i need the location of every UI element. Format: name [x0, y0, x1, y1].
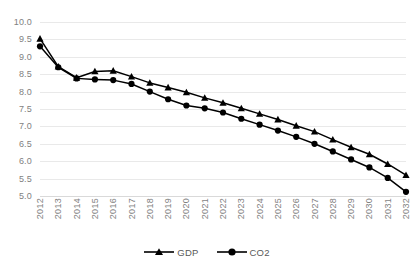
- x-tick-label: 2012: [35, 198, 45, 219]
- y-tick-label: 8.0: [19, 87, 32, 96]
- data-point-triangle: [36, 35, 43, 42]
- data-point-circle: [202, 105, 208, 111]
- data-point-circle: [403, 189, 409, 195]
- triangle-marker-icon: [144, 246, 174, 258]
- x-tick-label: 2018: [145, 198, 155, 219]
- data-point-circle: [55, 64, 61, 70]
- x-tick-label: 2016: [108, 198, 118, 219]
- data-point-circle: [366, 164, 372, 170]
- data-point-circle: [293, 134, 299, 140]
- y-axis-labels: 10.09.59.08.58.07.57.06.56.05.55.0: [0, 0, 36, 274]
- x-tick-label: 2020: [181, 198, 191, 219]
- data-point-circle: [385, 175, 391, 181]
- data-point-circle: [238, 116, 244, 122]
- y-tick-label: 5.0: [19, 192, 32, 201]
- chart-legend: GDP CO2: [0, 246, 414, 258]
- y-tick-label: 8.5: [19, 70, 32, 79]
- y-tick-label: 9.0: [19, 52, 32, 61]
- data-point-circle: [37, 43, 43, 49]
- y-tick-label: 6.0: [19, 157, 32, 166]
- data-point-circle: [275, 127, 281, 133]
- x-tick-label: 2027: [310, 198, 320, 219]
- series-line: [40, 39, 406, 175]
- x-tick-label: 2022: [218, 198, 228, 219]
- x-axis-labels: 2012201320142015201620172018201920202021…: [40, 198, 406, 238]
- data-point-circle: [220, 109, 226, 115]
- x-tick-label: 2025: [273, 198, 283, 219]
- data-point-circle: [165, 96, 171, 102]
- legend-label-gdp: GDP: [177, 247, 198, 258]
- x-tick-label: 2031: [383, 198, 393, 219]
- line-chart: 10.09.59.08.58.07.57.06.56.05.55.0 20122…: [0, 0, 414, 274]
- x-tick-label: 2026: [291, 198, 301, 219]
- data-point-circle: [183, 102, 189, 108]
- x-tick-label: 2021: [200, 198, 210, 219]
- data-point-circle: [110, 77, 116, 83]
- x-tick-label: 2015: [90, 198, 100, 219]
- legend-label-co2: CO2: [250, 247, 270, 258]
- x-tick-label: 2013: [53, 198, 63, 219]
- y-tick-label: 7.0: [19, 122, 32, 131]
- y-tick-label: 7.5: [19, 105, 32, 114]
- x-tick-label: 2024: [255, 198, 265, 219]
- legend-item-gdp[interactable]: GDP: [144, 246, 198, 258]
- circle-marker-icon: [217, 246, 247, 258]
- data-point-triangle: [402, 172, 409, 179]
- data-point-circle: [74, 75, 80, 81]
- x-tick-label: 2032: [401, 198, 411, 219]
- data-point-triangle: [384, 160, 391, 167]
- x-tick-label: 2019: [163, 198, 173, 219]
- x-axis-line: [40, 196, 406, 197]
- x-tick-label: 2023: [236, 198, 246, 219]
- x-tick-label: 2029: [346, 198, 356, 219]
- data-point-circle: [348, 156, 354, 162]
- y-tick-label: 5.5: [19, 174, 32, 183]
- series-gdp: [36, 35, 409, 178]
- data-point-circle: [257, 122, 263, 128]
- x-tick-label: 2028: [328, 198, 338, 219]
- y-tick-label: 6.5: [19, 139, 32, 148]
- data-point-circle: [147, 89, 153, 95]
- y-tick-label: 9.5: [19, 35, 32, 44]
- x-tick-label: 2030: [364, 198, 374, 219]
- data-point-circle: [92, 76, 98, 82]
- x-tick-label: 2014: [72, 198, 82, 219]
- data-point-circle: [330, 148, 336, 154]
- x-tick-label: 2017: [127, 198, 137, 219]
- plot-area: [40, 22, 406, 196]
- legend-item-co2[interactable]: CO2: [217, 246, 270, 258]
- series-layer: [40, 22, 406, 196]
- y-tick-label: 10.0: [14, 18, 32, 27]
- data-point-circle: [311, 141, 317, 147]
- series-co2: [37, 43, 409, 195]
- data-point-circle: [128, 81, 134, 87]
